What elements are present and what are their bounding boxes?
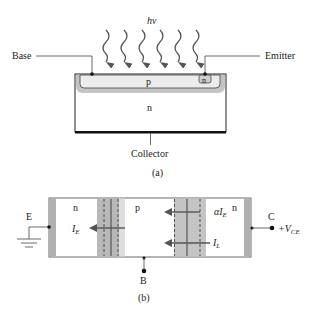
base-contact-dot — [90, 72, 94, 76]
base-terminal-label: B — [140, 275, 147, 286]
p-label: p — [135, 202, 140, 213]
photon-arrow-icon — [157, 30, 163, 62]
cb-depletion — [174, 199, 206, 257]
photon-arrow-icon — [103, 30, 109, 62]
base-label: Base — [12, 50, 32, 61]
n-bulk-label: n — [147, 102, 152, 113]
n-emitter-label: n — [202, 76, 206, 85]
photon-arrow-icon — [175, 30, 181, 62]
ground-icon — [17, 239, 41, 247]
right-n-label: n — [232, 202, 237, 213]
caption-b: (b) — [138, 292, 150, 304]
photon-arrow-icon — [193, 30, 199, 62]
collector-terminal-label: C — [268, 211, 275, 222]
collector-label: Collector — [131, 148, 169, 159]
photon-arrows — [103, 30, 199, 62]
phototransistor-diagram: hν n p n Collector Base Emitter — [0, 0, 317, 314]
p-region-label: p — [146, 76, 151, 87]
collector-terminal-dot — [270, 226, 275, 231]
figure-b: n p n IE αIE IL E C +VCE B (b) — [17, 198, 301, 304]
emitter-label: Emitter — [265, 50, 296, 61]
emitter-terminal-label: E — [26, 211, 32, 222]
base-terminal-dot — [142, 269, 147, 274]
photon-arrow-icon — [121, 30, 127, 62]
photon-label: hν — [147, 15, 157, 26]
collector-contact-strip — [244, 199, 251, 257]
vce-label: +VCE — [278, 223, 301, 236]
photon-arrow-icon — [139, 30, 145, 62]
left-n-label: n — [73, 202, 78, 213]
figure-a: hν n p n Collector Base Emitter — [12, 15, 296, 179]
emitter-contact-dot — [203, 72, 207, 76]
caption-a: (a) — [152, 167, 163, 179]
